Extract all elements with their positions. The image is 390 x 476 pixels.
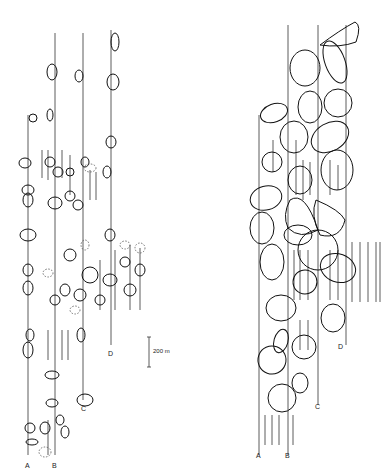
transect-label-b-left: B <box>52 462 57 469</box>
transect-label-d-left: D <box>108 350 113 357</box>
left-panel-diagram <box>0 0 195 476</box>
transect-label-a-left: A <box>25 462 30 469</box>
transect-label-d-right: D <box>338 343 343 350</box>
transect-label-c-right: C <box>315 403 320 410</box>
transect-label-b-right: B <box>285 452 290 459</box>
transect-label-c-left: C <box>81 405 86 412</box>
transect-label-a-right: A <box>256 452 261 459</box>
scale-bar-label: 200 m <box>153 348 170 354</box>
